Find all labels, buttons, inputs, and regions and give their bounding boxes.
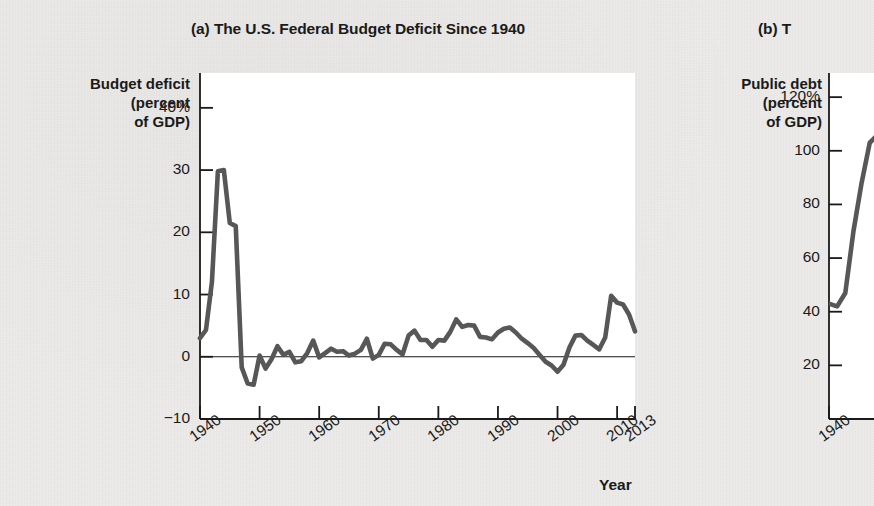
panel-b-y-tick-label-2: 80: [738, 194, 820, 212]
panel-a-y-tick-label-1: 30: [120, 160, 190, 178]
panel-a-y-tick-label-5: −10: [120, 409, 190, 427]
panel-b-y-tick-label-5: 20: [738, 355, 820, 373]
panel-b-data-line: [829, 135, 874, 307]
panel-b-y-tick-label-3: 60: [738, 248, 820, 266]
panel-a-y-tick-label-3: 10: [120, 285, 190, 303]
panel-b-y-axis-title-line-3: of GDP): [650, 112, 822, 131]
panel-b-y-tick-label-1: 100: [738, 141, 820, 159]
panel-b-y-tick-label-4: 40: [738, 302, 820, 320]
panel-a-y-axis-title-line-1: Budget deficit: [8, 74, 190, 93]
panel-b-y-tick-label-0: 120%: [738, 87, 820, 105]
panel-a-y-tick-label-4: 0: [120, 347, 190, 365]
panel-a-x-axis-title: Year: [599, 476, 632, 494]
panel-a-title: (a) The U.S. Federal Budget Deficit Sinc…: [128, 20, 588, 38]
panel-a-y-tick-label-2: 20: [120, 222, 190, 240]
panel-a-data-line: [200, 170, 635, 385]
panel-a-y-tick-label-0: 40%: [120, 98, 190, 116]
panel-b-title: (b) T: [758, 20, 874, 38]
